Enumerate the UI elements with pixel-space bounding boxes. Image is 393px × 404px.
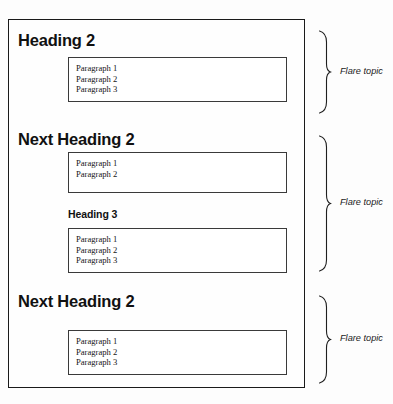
paragraph-line: Paragraph 2 — [76, 74, 286, 85]
section-1-annotation-group: Flare topic — [318, 30, 393, 114]
curly-brace-icon — [318, 295, 332, 384]
section-1-paragraph-box: Paragraph 1 Paragraph 2 Paragraph 3 — [68, 57, 287, 102]
paragraph-line: Paragraph 2 — [76, 245, 286, 256]
paragraph-line: Paragraph 1 — [76, 158, 286, 169]
section-2-annotation-group: Flare topic — [318, 135, 393, 272]
paragraph-line: Paragraph 1 — [76, 336, 286, 347]
paragraph-line: Paragraph 2 — [76, 169, 286, 180]
section-3-annotation-label: Flare topic — [340, 334, 383, 343]
paragraph-line: Paragraph 1 — [76, 234, 286, 245]
paragraph-line: Paragraph 3 — [76, 357, 286, 368]
paragraph-line: Paragraph 1 — [76, 63, 286, 74]
section-1-annotation-label: Flare topic — [340, 67, 383, 76]
section-2-paragraph-box-1: Paragraph 1 Paragraph 2 — [68, 152, 287, 193]
section-1-heading-2: Heading 2 — [18, 32, 95, 49]
paragraph-line: Paragraph 3 — [76, 255, 286, 266]
section-2-heading-3: Heading 3 — [68, 209, 117, 220]
section-2-heading-2: Next Heading 2 — [18, 131, 134, 148]
curly-brace-icon — [318, 30, 332, 114]
diagram-canvas: Heading 2 Paragraph 1 Paragraph 2 Paragr… — [0, 0, 393, 404]
section-3-paragraph-box: Paragraph 1 Paragraph 2 Paragraph 3 — [68, 330, 287, 375]
section-3-heading-2: Next Heading 2 — [18, 293, 134, 310]
curly-brace-icon — [318, 135, 332, 272]
section-2-annotation-label: Flare topic — [340, 198, 383, 207]
section-3-annotation-group: Flare topic — [318, 295, 393, 384]
paragraph-line: Paragraph 3 — [76, 84, 286, 95]
paragraph-line: Paragraph 2 — [76, 347, 286, 358]
section-2-paragraph-box-2: Paragraph 1 Paragraph 2 Paragraph 3 — [68, 228, 287, 273]
